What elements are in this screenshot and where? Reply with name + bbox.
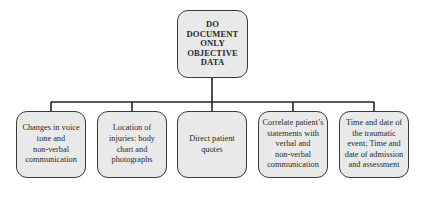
root-label: DODOCUMENTONLYOBJECTIVEDATA xyxy=(187,20,239,68)
child-node-time-and-date: Time and date ofthe traumaticevent; Time… xyxy=(339,111,409,178)
child-node-patient-quotes: Direct patientquotes xyxy=(177,111,247,178)
child-node-injury-location: Location ofinjuries: bodychart andphotog… xyxy=(97,111,167,178)
child-node-voice-tone: Changes in voicetone andnon-verbalcommun… xyxy=(16,111,86,178)
root-node: DODOCUMENTONLYOBJECTIVEDATA xyxy=(177,10,248,78)
child-label: Time and date ofthe traumaticevent; Time… xyxy=(345,118,404,171)
child-label: Changes in voicetone andnon-verbalcommun… xyxy=(22,123,79,165)
child-label: Location ofinjuries: bodychart andphotog… xyxy=(109,123,155,165)
child-node-correlate-statements: Correlate patient’sstatements withverbal… xyxy=(258,111,328,178)
child-label: Direct patientquotes xyxy=(189,134,234,155)
child-label: Correlate patient’sstatements withverbal… xyxy=(262,118,323,171)
